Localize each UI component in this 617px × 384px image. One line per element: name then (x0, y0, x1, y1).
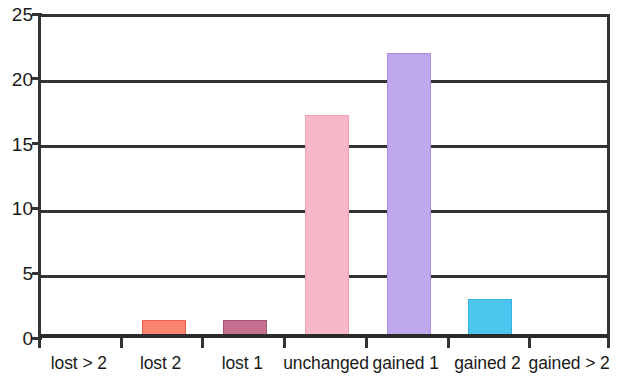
bar-chart: 2520151050 lost > 2lost 2lost 1unchanged… (0, 0, 617, 384)
y-tick-label-20: 20 (0, 70, 33, 89)
bars-layer (41, 17, 607, 334)
x-label-unchanged: unchanged (283, 352, 365, 374)
y-tick-label-25: 25 (0, 5, 33, 24)
plot-area (38, 14, 610, 338)
x-tick-mark-7 (607, 338, 610, 348)
bar-lost-2 (142, 320, 186, 334)
bar-unchanged (305, 115, 349, 334)
x-label-gained-1: gained 1 (365, 352, 447, 374)
y-tick-label-0: 0 (0, 329, 33, 348)
x-tick-mark-3 (283, 338, 286, 348)
x-label-lost-2: lost > 2 (38, 352, 120, 374)
bar-gained-1 (387, 53, 431, 334)
x-tick-mark-6 (528, 338, 531, 348)
x-axis-labels: lost > 2lost 2lost 1unchangedgained 1gai… (38, 352, 610, 380)
y-tick-label-5: 5 (0, 264, 33, 283)
x-tick-mark-4 (365, 338, 368, 348)
x-label-lost-1: lost 1 (201, 352, 283, 374)
x-tick-mark-1 (120, 338, 123, 348)
x-label-gained-2: gained 2 (447, 352, 529, 374)
bar-lost-1 (223, 320, 267, 334)
x-label-gained-2: gained > 2 (528, 352, 610, 374)
y-tick-label-10: 10 (0, 199, 33, 218)
x-label-lost-2: lost 2 (120, 352, 202, 374)
x-tick-mark-2 (201, 338, 204, 348)
x-tick-mark-0 (38, 338, 41, 348)
x-axis-tick-marks (38, 338, 610, 348)
x-tick-mark-5 (447, 338, 450, 348)
y-tick-label-15: 15 (0, 135, 33, 154)
bar-gained-2 (468, 299, 512, 334)
